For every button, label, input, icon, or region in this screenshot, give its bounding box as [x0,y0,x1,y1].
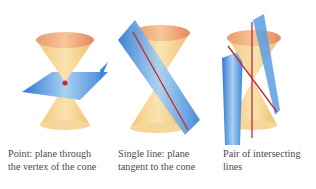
figure-intersecting-lines [222,14,281,145]
caption-line: Pair of intersecting [223,147,301,160]
caption-line: Single line: plane [118,147,195,160]
caption-single-line: Single line: plane tangent to the cone [118,147,195,173]
caption-line: the vertex of the cone [8,160,96,173]
vertex-point [63,81,68,86]
caption-line: tangent to the cone [118,160,195,173]
figure-point [22,32,108,130]
caption-point: Point: plane through the vertex of the c… [8,147,96,173]
figure-single-line [100,20,200,135]
caption-intersecting-lines: Pair of intersecting lines [223,147,301,173]
caption-line: lines [223,160,301,173]
degenerate-conics-diagram [0,0,316,150]
caption-line: Point: plane through [8,147,96,160]
